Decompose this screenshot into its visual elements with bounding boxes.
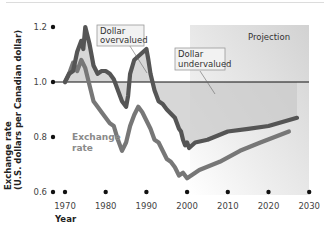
y-axis-title: Exchange rate (U.S. dollars per Canadian… [3, 30, 23, 190]
svg-text:1970: 1970 [54, 201, 76, 211]
svg-text:undervalued: undervalued [178, 59, 232, 69]
svg-text:2010: 2010 [217, 201, 239, 211]
svg-text:(U.S. dollars per Canadian dol: (U.S. dollars per Canadian dollar) [13, 30, 23, 190]
svg-text:1.2: 1.2 [33, 22, 47, 32]
projection-label: Projection [248, 32, 290, 42]
exchange-rate-label: Exchange [72, 132, 121, 142]
exchange-rate-chart: Projection Dollar overvalued Dollar unde… [0, 0, 324, 236]
svg-text:1990: 1990 [136, 201, 158, 211]
y-axis-ticks: 0.60.81.01.2 [33, 22, 55, 197]
svg-text:2020: 2020 [258, 201, 280, 211]
svg-text:0.6: 0.6 [33, 187, 47, 197]
svg-text:0.8: 0.8 [33, 132, 47, 142]
svg-text:2030: 2030 [298, 201, 320, 211]
x-axis-title: Year [54, 214, 77, 224]
svg-text:overvalued: overvalued [100, 35, 148, 45]
svg-text:1.0: 1.0 [33, 77, 47, 87]
svg-text:2000: 2000 [176, 201, 198, 211]
exchange-rate-label-line2: rate [72, 143, 93, 153]
svg-text:1980: 1980 [95, 201, 117, 211]
svg-text:Exchange rate: Exchange rate [3, 121, 13, 190]
svg-text:Dollar: Dollar [178, 49, 204, 59]
